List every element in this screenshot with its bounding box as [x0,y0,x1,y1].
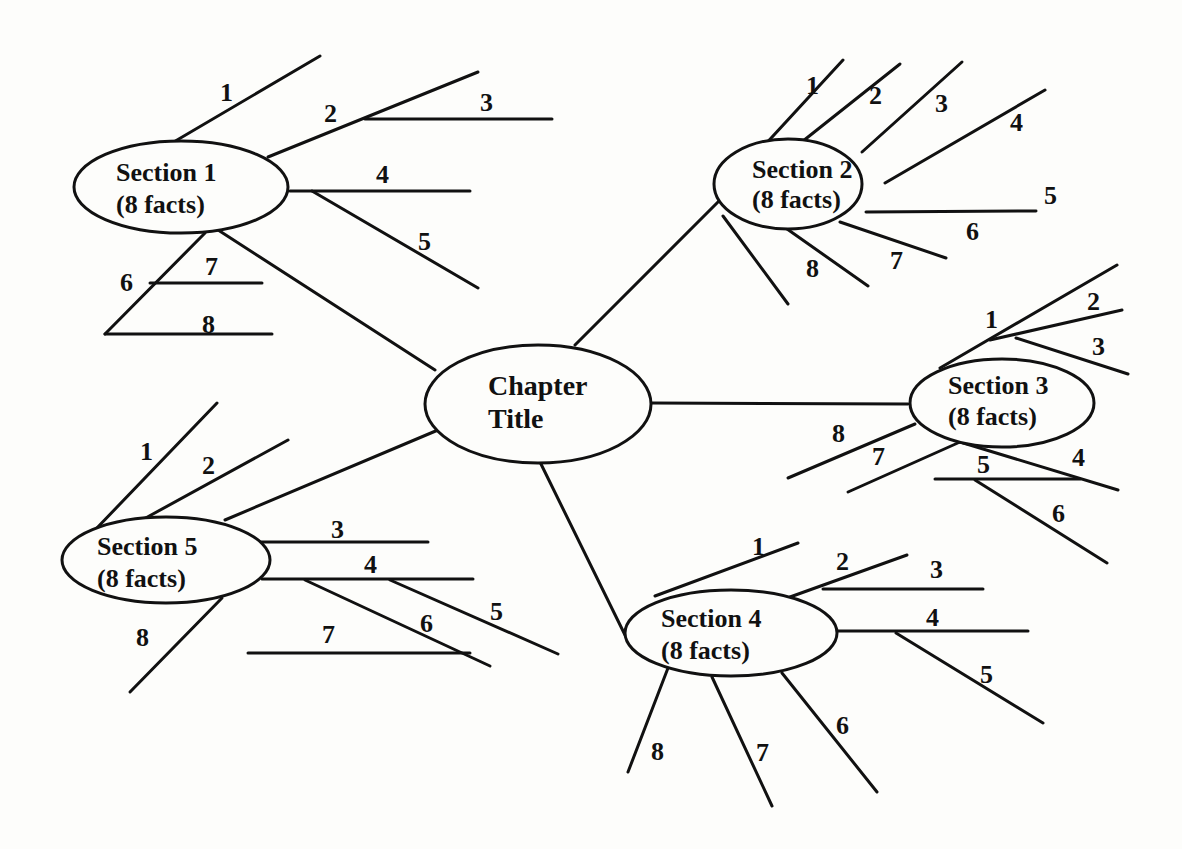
section-title: Section 1 [116,158,216,187]
fact-label: 5 [418,227,431,256]
fact-label: 6 [120,268,133,297]
fact-label: 2 [324,99,337,128]
fact-label: 1 [985,305,998,334]
fact-label: 7 [756,738,769,767]
center-title-line1: Chapter [488,370,588,401]
fact-label: 1 [220,78,233,107]
fact-label: 8 [136,623,149,652]
fact-label: 7 [872,442,885,471]
fact-label: 8 [651,737,664,766]
fact-label: 3 [480,88,493,117]
section-subtitle: (8 facts) [661,636,750,665]
fact-label: 5 [977,450,990,479]
section-5-node: Section 5 (8 facts) [62,517,270,603]
fact-label: 1 [140,437,153,466]
section-subtitle: (8 facts) [116,190,205,219]
fact-label: 5 [1044,181,1057,210]
fact-label: 6 [836,711,849,740]
fact-label: 2 [869,81,882,110]
section-title: Section 3 [948,371,1048,400]
section-subtitle: (8 facts) [948,402,1037,431]
fact-label: 1 [752,532,765,561]
fact-label: 5 [490,597,503,626]
fact-label: 1 [806,71,819,100]
section-title: Section 5 [97,532,197,561]
fact-label: 2 [836,547,849,576]
fact-label: 6 [1052,499,1065,528]
section-4-node: Section 4 (8 facts) [625,590,837,676]
section-3-node: Section 3 (8 facts) [910,359,1094,447]
fact-label: 7 [322,620,335,649]
center-node: Chapter Title [425,345,651,463]
mind-map-canvas: 1 2 3 4 5 6 7 8 1 2 3 4 5 6 7 8 1 [0,0,1182,849]
section-title: Section 2 [752,155,852,184]
mind-map-diagram: 1 2 3 4 5 6 7 8 1 2 3 4 5 6 7 8 1 [0,0,1182,849]
fact-label: 4 [926,603,939,632]
fact-label: 3 [935,89,948,118]
fact-label: 5 [980,660,993,689]
fact-label: 3 [930,555,943,584]
fact-label: 7 [205,252,218,281]
fact-label: 6 [966,217,979,246]
fact-label: 3 [331,515,344,544]
fact-label: 2 [1087,287,1100,316]
fact-label: 3 [1092,332,1105,361]
center-title-line2: Title [488,403,543,434]
fact-label: 6 [420,609,433,638]
fact-label: 8 [202,310,215,339]
fact-label: 2 [202,451,215,480]
section-title: Section 4 [661,604,761,633]
section-1-node: Section 1 (8 facts) [74,141,288,233]
fact-label: 4 [1072,443,1085,472]
fact-label: 8 [832,419,845,448]
fact-label: 8 [806,254,819,283]
fact-label: 4 [364,550,377,579]
fact-label: 4 [1010,108,1023,137]
fact-label: 7 [890,246,903,275]
section-subtitle: (8 facts) [752,185,841,214]
section-2-node: Section 2 (8 facts) [714,139,862,229]
section-subtitle: (8 facts) [97,564,186,593]
fact-label: 4 [376,160,389,189]
